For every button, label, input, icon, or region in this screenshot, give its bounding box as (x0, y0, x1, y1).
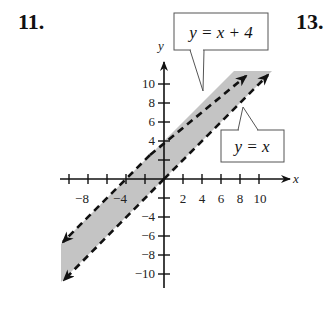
x-tick-label: −4 (113, 191, 127, 206)
x-axis: x −8 −4 2 4 6 8 10 (60, 171, 299, 206)
x-tick-label: 4 (199, 191, 206, 206)
y-tick-label: 10 (142, 76, 155, 91)
x-tick-label: 2 (180, 191, 187, 206)
x-tick-label: 6 (218, 191, 225, 206)
callout-y-equals-x: y = x (221, 107, 284, 162)
x-tick-label: 10 (254, 191, 267, 206)
graph: x −8 −4 2 4 6 8 10 y 10 8 (0, 0, 331, 317)
x-tick-label: −8 (75, 191, 89, 206)
callout-label: y = x (232, 137, 270, 156)
y-tick-label: −10 (135, 266, 155, 281)
callout-label: y = x + 4 (187, 23, 253, 42)
line-y-equals-x (64, 75, 268, 280)
y-tick-label: −8 (141, 247, 155, 262)
y-axis-label: y (156, 38, 164, 53)
y-tick-label: −6 (141, 228, 155, 243)
x-axis-label: x (292, 171, 299, 186)
y-tick-label: 6 (149, 114, 156, 129)
y-tick-label: 8 (149, 95, 156, 110)
y-tick-label: −4 (141, 209, 155, 224)
x-tick-label: 8 (237, 191, 244, 206)
y-tick-label: 4 (149, 133, 156, 148)
